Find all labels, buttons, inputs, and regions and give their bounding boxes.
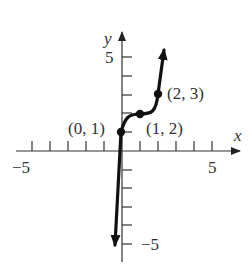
point-label-2-3: (2, 3) <box>167 84 204 103</box>
point-1-2 <box>136 110 144 118</box>
y-axis-label: y <box>102 29 112 48</box>
point-2-3 <box>154 90 162 98</box>
function-curve-lower <box>115 132 121 245</box>
graph: y x 5 −5 −5 5 (0, 1) (1, 2) (2, 3) <box>0 0 252 270</box>
x-axis-label: x <box>233 126 242 145</box>
y-tick-label-neg5: −5 <box>141 235 159 254</box>
point-label-1-2: (1, 2) <box>146 119 183 138</box>
x-tick-label-neg5: −5 <box>12 158 30 177</box>
point-0-1 <box>117 128 125 136</box>
y-tick-label-5: 5 <box>105 48 114 67</box>
x-tick-label-5: 5 <box>208 158 217 177</box>
point-label-0-1: (0, 1) <box>68 119 105 138</box>
